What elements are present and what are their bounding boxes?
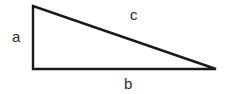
side-label-a: a	[12, 29, 20, 44]
triangle-shape	[0, 0, 229, 94]
side-label-c: c	[130, 7, 138, 22]
triangle-diagram: a b c	[0, 0, 229, 94]
side-label-b: b	[124, 76, 132, 91]
right-triangle-outline	[33, 6, 216, 69]
